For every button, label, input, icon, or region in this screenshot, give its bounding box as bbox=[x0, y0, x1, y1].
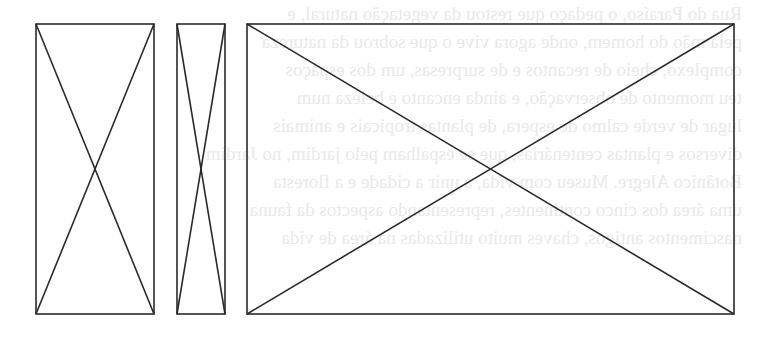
image-placeholder-box-1 bbox=[36, 24, 154, 314]
placeholder-diagram bbox=[0, 0, 770, 339]
image-placeholder-box-2 bbox=[177, 24, 225, 314]
image-placeholder-box-3 bbox=[247, 24, 734, 314]
